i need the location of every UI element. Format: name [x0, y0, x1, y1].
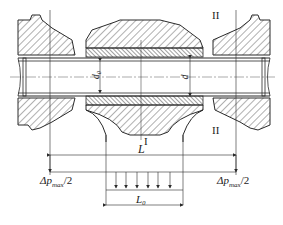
- right-lower-die: [213, 98, 270, 130]
- distributed-load-arrows: [116, 172, 170, 188]
- zone-label-II-top: II: [212, 10, 219, 21]
- center-upper-die: [86, 20, 203, 57]
- right-upper-die: [213, 15, 270, 55]
- d-label: d: [180, 75, 190, 80]
- zone-label-II-bottom: II: [212, 125, 219, 136]
- L0-label: L₀: [136, 194, 146, 205]
- d0-label: d₀: [91, 71, 101, 79]
- pressure-label-left: Δpmax/2: [40, 175, 72, 189]
- pressure-label-right: Δpmax/2: [217, 175, 249, 189]
- left-lower-die: [18, 98, 75, 130]
- L-label: L: [138, 143, 145, 155]
- left-upper-die: [18, 15, 75, 55]
- tube-bulging-die-diagram: [0, 0, 283, 225]
